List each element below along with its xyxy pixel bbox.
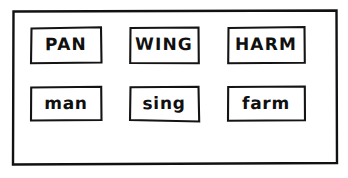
cell-label-wing: WING: [130, 36, 198, 53]
cell-label-harm: HARM: [228, 36, 304, 53]
cell-label-man: man: [31, 95, 101, 112]
cell-label-pan: PAN: [31, 36, 101, 53]
worksheet-canvas: PAN WING HARM man sing farm: [0, 0, 348, 178]
cell-label-farm: farm: [228, 95, 304, 112]
cell-label-sing: sing: [130, 95, 198, 113]
hand-drawn-ink-layer: [0, 0, 348, 178]
